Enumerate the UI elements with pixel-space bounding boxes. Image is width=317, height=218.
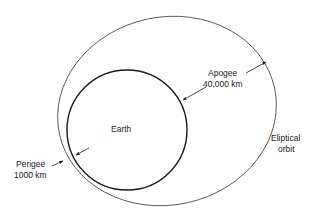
perigee-distance: 1000 km (14, 170, 47, 180)
apogee-arrow-to-orbit (246, 62, 266, 73)
perigee-arrow-to-earth (76, 148, 89, 155)
elliptical-orbit-path (40, 0, 294, 218)
orbit-label-line2: orbit (278, 144, 295, 154)
earth-label: Earth (111, 124, 131, 134)
orbit-label-line1: Eliptical (271, 133, 300, 143)
apogee-label: Apogee (208, 68, 237, 78)
perigee-arrow-to-orbit (52, 161, 63, 166)
orbit-diagram (0, 0, 317, 218)
apogee-distance: 40,000 km (203, 79, 243, 89)
perigee-label: Perigee (16, 159, 45, 169)
